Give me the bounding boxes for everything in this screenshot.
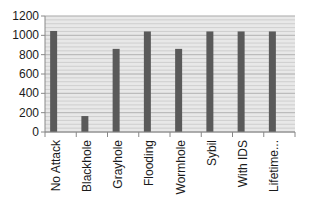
bar-blackhole — [81, 116, 88, 132]
bar-no-attack — [50, 31, 57, 132]
bar-flooding — [144, 31, 151, 132]
bar-grayhole — [113, 49, 120, 132]
x-axis: No AttackBlackholeGrayholeFloodingWormho… — [45, 132, 295, 194]
bar-lifetime — [269, 31, 276, 132]
y-tick-label: 0 — [32, 125, 39, 139]
x-category-label: Blackhole — [80, 140, 94, 192]
x-category-label: Flooding — [142, 140, 156, 186]
y-tick-label: 800 — [19, 48, 39, 62]
bar-sybil — [206, 31, 213, 132]
x-category-label: With IDS — [236, 140, 250, 187]
y-tick-label: 1200 — [12, 9, 39, 23]
x-category-label: Grayhole — [111, 140, 125, 189]
bar-with-ids — [238, 31, 245, 132]
x-category-label: Wormhole — [174, 140, 188, 195]
bar-chart: 020040060080010001200 No AttackBlackhole… — [0, 0, 310, 204]
y-tick-label: 400 — [19, 86, 39, 100]
y-axis: 020040060080010001200 — [12, 9, 45, 139]
x-category-label: Sybil — [205, 140, 219, 166]
x-category-label: Lifetime... — [267, 140, 281, 192]
y-tick-label: 200 — [19, 106, 39, 120]
y-tick-label: 1000 — [12, 28, 39, 42]
y-tick-label: 600 — [19, 67, 39, 81]
x-category-label: No Attack — [49, 139, 63, 191]
bar-wormhole — [175, 49, 182, 132]
